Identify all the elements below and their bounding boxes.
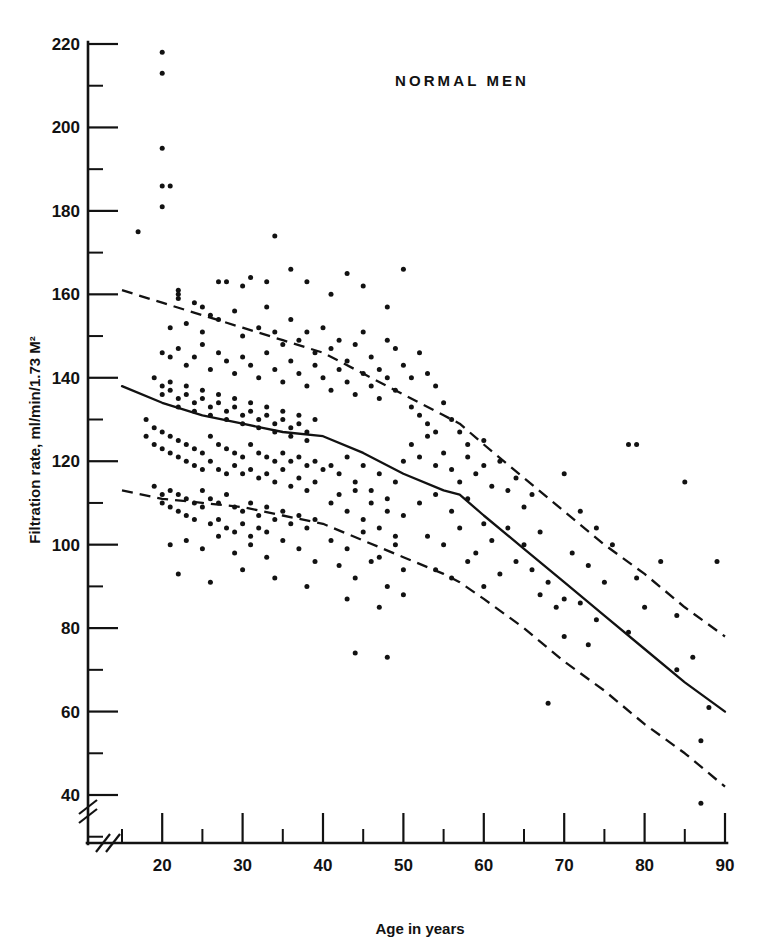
data-point bbox=[634, 442, 639, 447]
data-point bbox=[168, 450, 173, 455]
data-point bbox=[385, 496, 390, 501]
data-point bbox=[208, 580, 213, 585]
data-point bbox=[200, 505, 205, 510]
data-point bbox=[433, 463, 438, 468]
data-point bbox=[385, 304, 390, 309]
data-point bbox=[248, 500, 253, 505]
data-point bbox=[313, 417, 318, 422]
data-point bbox=[530, 492, 535, 497]
data-point bbox=[337, 367, 342, 372]
data-point bbox=[216, 534, 221, 539]
data-point bbox=[329, 292, 334, 297]
data-point bbox=[449, 467, 454, 472]
data-point bbox=[176, 571, 181, 576]
data-point bbox=[248, 275, 253, 280]
data-point bbox=[184, 538, 189, 543]
data-point bbox=[385, 338, 390, 343]
data-point bbox=[272, 367, 277, 372]
data-point bbox=[256, 513, 261, 518]
data-point bbox=[369, 354, 374, 359]
data-point bbox=[313, 350, 318, 355]
data-point bbox=[232, 530, 237, 535]
data-point bbox=[441, 542, 446, 547]
plot-title: NORMAL MEN bbox=[395, 72, 529, 89]
data-point bbox=[240, 521, 245, 526]
data-point bbox=[401, 592, 406, 597]
y-tick-label-80: 80 bbox=[61, 619, 80, 638]
data-point bbox=[304, 488, 309, 493]
data-point bbox=[240, 334, 245, 339]
data-point bbox=[642, 605, 647, 610]
data-point bbox=[522, 542, 527, 547]
data-point bbox=[706, 705, 711, 710]
data-point bbox=[184, 384, 189, 389]
data-point bbox=[441, 400, 446, 405]
data-point bbox=[433, 430, 438, 435]
data-point bbox=[280, 379, 285, 384]
data-point bbox=[232, 463, 237, 468]
data-point bbox=[200, 488, 205, 493]
y-tick-label-100: 100 bbox=[52, 536, 80, 555]
data-point bbox=[417, 500, 422, 505]
data-point bbox=[272, 517, 277, 522]
data-point bbox=[377, 396, 382, 401]
data-point bbox=[698, 738, 703, 743]
x-tick-label-20: 20 bbox=[153, 856, 172, 875]
data-point bbox=[457, 480, 462, 485]
data-point bbox=[409, 405, 414, 410]
data-point bbox=[369, 559, 374, 564]
data-point bbox=[489, 484, 494, 489]
data-point bbox=[698, 801, 703, 806]
data-point bbox=[168, 542, 173, 547]
data-point bbox=[184, 363, 189, 368]
data-point bbox=[288, 484, 293, 489]
data-point bbox=[280, 409, 285, 414]
data-point bbox=[240, 471, 245, 476]
data-point bbox=[208, 521, 213, 526]
figure-background bbox=[0, 0, 764, 949]
data-point bbox=[626, 442, 631, 447]
data-point bbox=[313, 517, 318, 522]
data-point bbox=[240, 421, 245, 426]
data-point bbox=[296, 455, 301, 460]
x-tick-label-70: 70 bbox=[555, 856, 574, 875]
data-point bbox=[353, 651, 358, 656]
data-point bbox=[272, 233, 277, 238]
data-point bbox=[385, 584, 390, 589]
data-point bbox=[715, 559, 720, 564]
data-point bbox=[200, 546, 205, 551]
data-point bbox=[160, 430, 165, 435]
data-point bbox=[345, 596, 350, 601]
data-point bbox=[224, 471, 229, 476]
data-point bbox=[224, 359, 229, 364]
data-point bbox=[192, 354, 197, 359]
data-point bbox=[184, 392, 189, 397]
data-point bbox=[497, 571, 502, 576]
data-point bbox=[168, 488, 173, 493]
data-point bbox=[280, 417, 285, 422]
y-tick-label-140: 140 bbox=[52, 369, 80, 388]
data-point bbox=[425, 434, 430, 439]
data-point bbox=[136, 229, 141, 234]
data-point bbox=[248, 542, 253, 547]
data-point bbox=[473, 551, 478, 556]
data-point bbox=[481, 584, 486, 589]
data-point bbox=[313, 459, 318, 464]
data-point bbox=[473, 471, 478, 476]
data-point bbox=[264, 471, 269, 476]
data-point bbox=[369, 384, 374, 389]
data-point bbox=[160, 146, 165, 151]
data-point bbox=[256, 475, 261, 480]
data-point bbox=[337, 492, 342, 497]
data-point bbox=[256, 526, 261, 531]
data-point bbox=[160, 183, 165, 188]
data-point bbox=[208, 313, 213, 318]
data-point bbox=[264, 505, 269, 510]
data-point bbox=[353, 342, 358, 347]
data-point bbox=[674, 667, 679, 672]
y-tick-label-220: 220 bbox=[52, 35, 80, 54]
data-point bbox=[345, 359, 350, 364]
y-tick-label-200: 200 bbox=[52, 118, 80, 137]
data-point bbox=[353, 392, 358, 397]
data-point bbox=[192, 300, 197, 305]
